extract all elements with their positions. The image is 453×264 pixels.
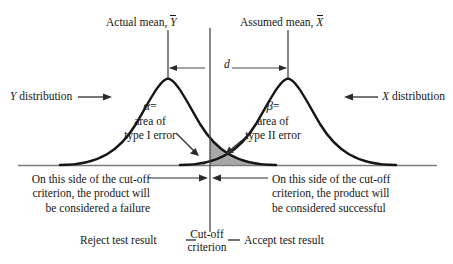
reject-test-result-label: Reject test result (80, 234, 157, 248)
alpha-second-line: area of (112, 114, 188, 128)
left-side-line-2: criterion, the product will (18, 186, 150, 200)
x-bar-symbol: X (316, 16, 323, 30)
beta-second-line: area of (232, 114, 314, 128)
beta-annotation: β= area of type II error (232, 98, 314, 142)
beta-first-line: β= (232, 98, 314, 114)
y-distribution-label: Y distribution (10, 90, 72, 104)
y-symbol: Y (10, 90, 16, 102)
right-side-leader (212, 175, 268, 182)
statistical-distribution-figure: Actual mean, Y Assumed mean, X d Y distr… (0, 0, 453, 264)
beta-equals: = (273, 100, 280, 112)
right-side-description: On this side of the cut-off criterion, t… (272, 172, 442, 215)
right-side-line-2: criterion, the product will (272, 186, 442, 200)
figure-graphics (0, 0, 453, 264)
x-distribution-word: distribution (392, 90, 445, 102)
left-side-leader (148, 175, 208, 182)
y-bar-symbol: Y (170, 16, 176, 30)
x-distribution-label: X distribution (382, 90, 445, 104)
left-side-description: On this side of the cut-off criterion, t… (18, 172, 150, 215)
alpha-equals: = (150, 100, 157, 112)
alpha-first-line: α= (112, 98, 188, 114)
x-symbol: X (382, 90, 389, 102)
actual-mean-label: Actual mean, Y (106, 16, 177, 30)
cutoff-line-1: Cut-off (180, 228, 234, 241)
y-distribution-word: distribution (19, 90, 72, 102)
x-distribution-leader (344, 94, 378, 101)
beta-third-line: type II error (232, 128, 314, 142)
assumed-mean-text: Assumed mean, (240, 16, 313, 28)
assumed-mean-label: Assumed mean, X (240, 16, 323, 30)
alpha-annotation: α= area of type I error (112, 98, 188, 142)
cutoff-criterion-label: Cut-off criterion (180, 228, 234, 255)
y-distribution-leader (78, 94, 112, 101)
left-side-line-1: On this side of the cut-off (18, 172, 150, 186)
alpha-third-line: type I error (112, 128, 188, 142)
d-distance-label: d (224, 58, 230, 72)
right-side-line-1: On this side of the cut-off (272, 172, 442, 186)
accept-test-result-label: Accept test result (244, 234, 324, 248)
cutoff-line-2: criterion (180, 241, 234, 254)
left-side-line-3: be considered a failure (18, 201, 150, 215)
actual-mean-text: Actual mean, (106, 16, 167, 28)
right-side-line-3: be considered successful (272, 201, 442, 215)
